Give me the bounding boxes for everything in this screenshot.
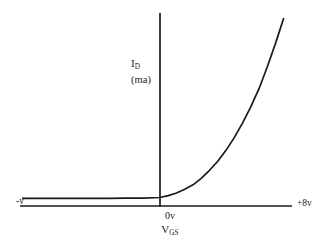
origin-value-label: 0v [148,211,192,222]
y-axis-label-group: ID (ma) [131,58,151,85]
origin-label-group: 0v VGS [148,211,192,237]
x-axis-quantity-label: VGS [148,224,192,237]
x-axis-quantity-subscript: GS [169,228,179,236]
y-axis-quantity-subscript: D [135,63,140,71]
y-axis-quantity-label: ID [131,58,151,71]
transfer-characteristic-curve [22,18,284,198]
x-axis-left-end-label: -v [16,197,24,207]
y-axis-unit-label: (ma) [131,74,151,85]
x-axis-right-end-label: +8v [297,199,312,209]
jfet-transfer-characteristic-figure: ID (ma) -v +8v 0v VGS [0,0,322,248]
